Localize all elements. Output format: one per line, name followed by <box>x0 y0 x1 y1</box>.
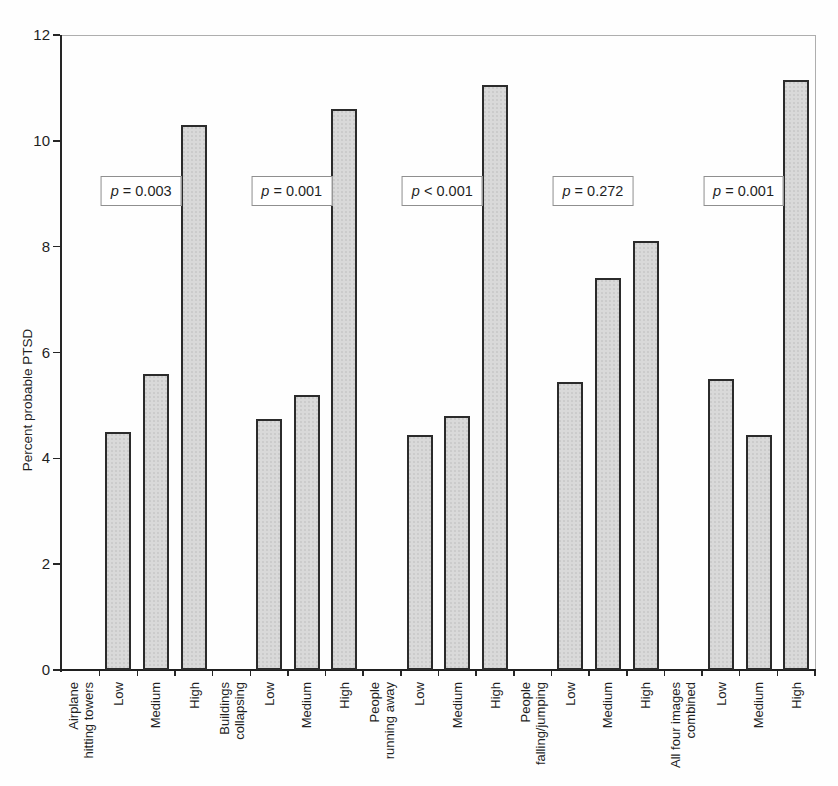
x-category-label-buildings-collapsing-line: collapsing <box>231 682 246 740</box>
x-axis-tick <box>513 671 515 676</box>
x-series-label-high-line: High <box>337 682 352 709</box>
x-category-label-airplane-hitting-towers-line: Airplane <box>66 682 81 759</box>
x-series-label-high: High <box>638 682 653 709</box>
x-axis-tick <box>664 671 666 676</box>
x-axis-tick <box>739 671 741 676</box>
x-series-label-high-line: High <box>186 682 201 709</box>
x-category-label-people-falling-jumping-line: People <box>518 682 533 765</box>
y-axis-tick <box>53 352 60 354</box>
x-axis-tick <box>588 671 590 676</box>
y-axis-tick <box>53 669 60 671</box>
p-symbol: p <box>261 183 269 199</box>
x-category-label-buildings-collapsing-line: Buildings <box>216 682 231 740</box>
x-axis-tick <box>99 671 101 676</box>
bar-all-four-images-combined-medium <box>746 435 772 670</box>
y-tick-label: 2 <box>20 555 50 573</box>
bar-buildings-collapsing-medium <box>294 395 320 670</box>
p-symbol: p <box>111 183 119 199</box>
x-series-label-low: Low <box>563 682 578 706</box>
x-axis-tick <box>362 671 364 676</box>
x-series-label-low-line: Low <box>713 682 728 706</box>
x-series-label-medium: Medium <box>450 682 465 728</box>
x-series-label-medium-line: Medium <box>450 682 465 728</box>
x-series-label-low-line: Low <box>412 682 427 706</box>
p-symbol: p <box>412 183 420 199</box>
y-axis <box>60 35 62 672</box>
y-tick-label: 12 <box>20 26 50 44</box>
x-category-label-people-running-away: Peoplerunning away <box>367 682 397 759</box>
bar-people-running-away-medium <box>444 416 470 670</box>
x-category-label-airplane-hitting-towers: Airplanehitting towers <box>66 682 96 759</box>
p-symbol: p <box>713 183 721 199</box>
x-series-label-low: Low <box>111 682 126 706</box>
p-value-box-people-falling-jumping: p = 0.272 <box>552 176 633 206</box>
y-axis-tick <box>53 563 60 565</box>
x-series-label-low-line: Low <box>111 682 126 706</box>
x-category-label-all-four-images-combined-line: All four images <box>668 682 683 768</box>
x-axis-tick <box>777 671 779 676</box>
x-axis-tick <box>137 671 139 676</box>
bar-airplane-hitting-towers-low <box>105 432 131 670</box>
x-axis-tick <box>250 671 252 676</box>
x-category-label-airplane-hitting-towers-line: hitting towers <box>81 682 96 759</box>
x-category-label-people-falling-jumping-line: falling/jumping <box>533 682 548 765</box>
x-series-label-high: High <box>337 682 352 709</box>
y-axis-tick <box>53 34 60 36</box>
x-series-label-high-line: High <box>487 682 502 709</box>
x-series-label-high: High <box>186 682 201 709</box>
ptsd-bar-chart-figure: Percent probable PTSD 024681012Airplaneh… <box>0 0 838 786</box>
x-axis-tick <box>287 671 289 676</box>
x-category-label-people-running-away-line: running away <box>382 682 397 759</box>
p-value-box-airplane-hitting-towers: p = 0.003 <box>101 176 182 206</box>
x-series-label-high-line: High <box>789 682 804 709</box>
x-series-label-high-line: High <box>638 682 653 709</box>
x-series-label-high: High <box>487 682 502 709</box>
x-series-label-high: High <box>789 682 804 709</box>
x-series-label-low: Low <box>412 682 427 706</box>
bar-all-four-images-combined-high <box>783 80 809 670</box>
y-tick-label: 4 <box>20 449 50 467</box>
bar-all-four-images-combined-low <box>708 379 734 670</box>
y-axis-tick <box>53 140 60 142</box>
x-series-label-medium-line: Medium <box>299 682 314 728</box>
x-series-label-medium: Medium <box>600 682 615 728</box>
x-axis-tick <box>814 671 816 676</box>
plot-area-border <box>62 35 816 671</box>
x-category-label-buildings-collapsing: Buildingscollapsing <box>216 682 246 740</box>
y-axis-tick <box>53 246 60 248</box>
x-axis-tick <box>438 671 440 676</box>
p-symbol: p <box>562 183 570 199</box>
bar-airplane-hitting-towers-high <box>181 125 207 670</box>
x-axis-tick <box>701 671 703 676</box>
x-series-label-low-line: Low <box>262 682 277 706</box>
x-series-label-low: Low <box>713 682 728 706</box>
bar-people-running-away-high <box>482 85 508 670</box>
y-tick-label: 6 <box>20 344 50 362</box>
x-category-label-all-four-images-combined: All four imagescombined <box>668 682 698 768</box>
p-value-box-all-four-images-combined: p = 0.001 <box>703 176 784 206</box>
p-value-box-people-running-away: p < 0.001 <box>402 176 483 206</box>
x-axis-tick <box>475 671 477 676</box>
x-category-label-people-falling-jumping: Peoplefalling/jumping <box>518 682 548 765</box>
x-series-label-medium: Medium <box>299 682 314 728</box>
bar-buildings-collapsing-high <box>331 109 357 670</box>
x-series-label-medium-line: Medium <box>149 682 164 728</box>
y-tick-label: 0 <box>20 661 50 679</box>
x-series-label-medium: Medium <box>149 682 164 728</box>
p-value-box-buildings-collapsing: p = 0.001 <box>251 176 332 206</box>
x-series-label-low: Low <box>262 682 277 706</box>
bar-people-falling-jumping-high <box>633 241 659 670</box>
x-series-label-medium: Medium <box>751 682 766 728</box>
bar-people-falling-jumping-low <box>557 382 583 670</box>
x-axis-tick <box>325 671 327 676</box>
bar-airplane-hitting-towers-medium <box>143 374 169 670</box>
bar-people-running-away-low <box>407 435 433 670</box>
x-series-label-low-line: Low <box>563 682 578 706</box>
bar-people-falling-jumping-medium <box>595 278 621 670</box>
y-tick-label: 8 <box>20 238 50 256</box>
x-category-label-all-four-images-combined-line: combined <box>683 682 698 768</box>
x-series-label-medium-line: Medium <box>600 682 615 728</box>
x-axis-tick <box>400 671 402 676</box>
x-series-label-medium-line: Medium <box>751 682 766 728</box>
x-axis-tick <box>174 671 176 676</box>
